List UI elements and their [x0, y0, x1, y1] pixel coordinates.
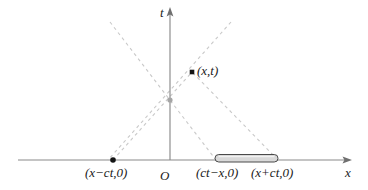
origin-label: O	[160, 169, 169, 182]
interval-left-endpoint-label: (ct−x,0)	[196, 166, 238, 179]
backward-left-ray-line	[113, 72, 192, 160]
left-base-point-dot	[110, 157, 116, 163]
forward-left-ray-line	[110, 22, 216, 160]
interval-right-endpoint-label: (x+ct,0)	[251, 166, 293, 179]
axis-lines	[18, 13, 346, 160]
spacetime-diagram-figure: t x O (x−ct,0) (ct−x,0) (x+ct,0) (x,t)	[0, 0, 368, 190]
interval-bar	[215, 155, 278, 163]
interior-point-label: (x,t)	[197, 64, 218, 77]
t-axis-label: t	[160, 6, 164, 19]
backward-right-ray-line	[192, 72, 278, 160]
t-axis-crossing-dot	[167, 97, 172, 102]
interior-point-square-marker	[190, 70, 195, 75]
x-axis-label: x	[345, 166, 351, 179]
dashed-characteristic-lines	[108, 22, 278, 160]
left-base-point-label: (x−ct,0)	[85, 166, 127, 179]
diagram-canvas	[0, 0, 368, 190]
